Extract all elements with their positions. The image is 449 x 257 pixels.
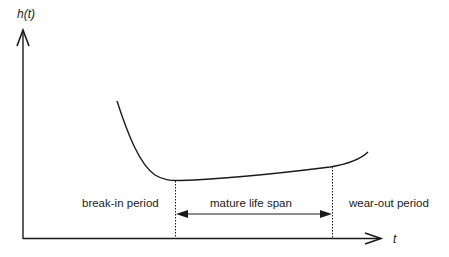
hazard-curve: [117, 101, 368, 181]
x-axis-label: t: [393, 232, 397, 246]
mature-label: mature life span: [210, 197, 292, 209]
right-arrowhead-icon: [320, 210, 332, 218]
y-axis-label: h(t): [17, 7, 35, 21]
left-arrowhead-icon: [176, 210, 188, 218]
wear-out-label: wear-out period: [348, 197, 429, 209]
bathtub-diagram: h(t) t break-in period mature life span …: [0, 0, 449, 257]
break-in-label: break-in period: [82, 197, 159, 209]
